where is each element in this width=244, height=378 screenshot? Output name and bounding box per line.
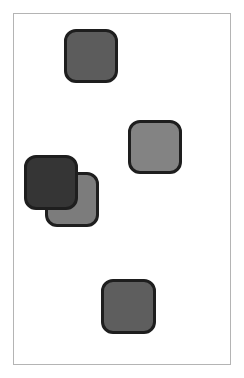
draggable-tile[interactable] — [64, 29, 118, 83]
draggable-tile[interactable] — [24, 155, 78, 210]
draggable-tile[interactable] — [101, 279, 156, 334]
draggable-tile[interactable] — [128, 120, 182, 174]
